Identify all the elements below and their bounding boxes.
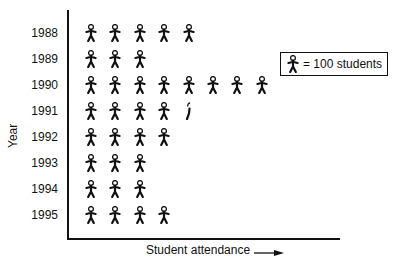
x-axis-label: Student attendance (146, 243, 250, 257)
person-icon (84, 76, 98, 94)
person-icon (84, 180, 98, 198)
year-label: 1988 (18, 23, 58, 43)
person-icon (108, 102, 122, 120)
person-icon (230, 76, 244, 94)
legend: = 100 students (280, 52, 388, 76)
person-icon (108, 50, 122, 68)
half-person-icon (182, 102, 196, 120)
person-icon (133, 24, 147, 42)
year-label: 1989 (18, 49, 58, 69)
person-icon (133, 206, 147, 224)
person-icon (157, 128, 171, 146)
person-icon (108, 128, 122, 146)
person-icon (133, 128, 147, 146)
year-label: 1995 (18, 205, 58, 225)
year-label: 1991 (18, 101, 58, 121)
legend-label: = 100 students (303, 57, 382, 71)
person-icon (108, 154, 122, 172)
person-icon (182, 24, 196, 42)
person-icon (84, 154, 98, 172)
year-label: 1992 (18, 127, 58, 147)
person-icon (182, 76, 196, 94)
person-icon (133, 180, 147, 198)
person-icon (206, 76, 220, 94)
person-icon (133, 154, 147, 172)
person-icon (157, 24, 171, 42)
person-icon (108, 24, 122, 42)
person-icon (286, 55, 300, 73)
person-icon (84, 50, 98, 68)
year-label: 1994 (18, 179, 58, 199)
person-icon (133, 50, 147, 68)
y-axis-line (67, 10, 69, 240)
person-icon (157, 102, 171, 120)
person-icon (108, 180, 122, 198)
year-label: 1990 (18, 75, 58, 95)
arrow-right-icon (254, 250, 284, 256)
person-icon (255, 76, 269, 94)
person-icon (84, 206, 98, 224)
year-label: 1993 (18, 153, 58, 173)
person-icon (84, 128, 98, 146)
person-icon (133, 76, 147, 94)
person-icon (84, 102, 98, 120)
person-icon (157, 206, 171, 224)
person-icon (84, 24, 98, 42)
person-icon (157, 76, 171, 94)
person-icon (108, 76, 122, 94)
person-icon (108, 206, 122, 224)
person-icon (133, 102, 147, 120)
x-axis-line (67, 238, 340, 240)
